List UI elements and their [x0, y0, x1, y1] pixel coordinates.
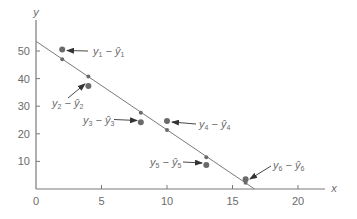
observed-point: [85, 83, 91, 89]
x-axis-title: x: [330, 182, 337, 194]
x-tick-labels: 0 5 10 15 20: [33, 195, 304, 207]
arrow-4: [172, 122, 196, 124]
y-tick-label: 30: [18, 100, 30, 112]
arrow-3: [114, 120, 137, 121]
x-tick-label: 5: [98, 195, 104, 207]
arrow-1: [67, 51, 88, 52]
arrow-5: [183, 162, 202, 163]
fitted-point: [60, 57, 64, 61]
x-tick-label: 0: [33, 195, 39, 207]
fitted-point: [204, 155, 208, 159]
residual-label-6: y6 − ŷ6: [272, 159, 304, 172]
fitted-point: [165, 128, 169, 132]
x-tick-label: 15: [226, 195, 238, 207]
y-axis-title: y: [32, 6, 40, 18]
arrow-2: [68, 84, 85, 98]
observed-point: [59, 47, 65, 53]
observed-point: [243, 176, 249, 182]
y-tick-label: 10: [18, 155, 30, 167]
x-tick-label: 10: [161, 195, 173, 207]
regression-line: [36, 41, 255, 189]
observed-point: [164, 118, 170, 124]
residual-scatter-chart: 0 5 10 15 20 10 20 30 40 50 y x: [0, 0, 357, 219]
y-tick-label: 50: [18, 45, 30, 57]
fitted-point: [139, 111, 143, 115]
y-tick-labels: 10 20 30 40 50: [18, 45, 30, 167]
observed-point: [138, 119, 144, 125]
residual-label-5: y5 − ŷ5: [149, 156, 181, 169]
y-tick-label: 40: [18, 73, 30, 85]
y-tick-label: 20: [18, 128, 30, 140]
residual-label-1: y1 − ŷ1: [92, 45, 124, 58]
observed-point: [203, 162, 209, 168]
x-tick-label: 20: [292, 195, 304, 207]
arrow-6: [250, 166, 271, 179]
residual-label-3: y3 − ŷ3: [82, 114, 114, 127]
residual-label-2: y2 − ŷ2: [51, 97, 83, 110]
fitted-point: [86, 74, 90, 78]
residual-label-4: y4 − ŷ4: [198, 118, 230, 131]
